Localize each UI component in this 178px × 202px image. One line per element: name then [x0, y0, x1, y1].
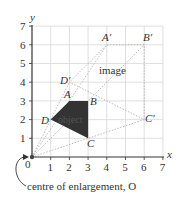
vertex-label-D-prime: D′ — [59, 74, 71, 86]
y-tick-1: 1 — [20, 132, 26, 144]
vertex-label-A: A — [63, 88, 71, 100]
y-tick-5: 5 — [20, 57, 26, 69]
y-tick-4: 4 — [20, 76, 26, 88]
x-tick-2: 2 — [66, 161, 72, 173]
x-axis-label: x — [166, 148, 172, 160]
x-tick-6: 6 — [141, 161, 147, 173]
y-tick-3: 3 — [20, 95, 26, 107]
y-tick-6: 6 — [20, 39, 26, 51]
x-tick-1: 1 — [48, 161, 54, 173]
centre-caption: centre of enlargement, O — [27, 180, 136, 192]
vertex-label-B-prime: B′ — [143, 31, 153, 43]
vertex-label-D: D — [40, 114, 49, 126]
x-tick-4: 4 — [104, 161, 110, 173]
x-tick-7: 7 — [160, 161, 166, 173]
object-label: object — [58, 114, 83, 125]
origin-label: 0 — [25, 158, 31, 170]
y-axis-label: y — [29, 11, 35, 23]
x-tick-3: 3 — [85, 161, 91, 173]
vertex-label-C: C — [87, 137, 95, 149]
x-tick-5: 5 — [122, 161, 128, 173]
vertex-label-C-prime: C′ — [145, 112, 155, 124]
image-label: image — [99, 64, 126, 76]
vertex-label-B: B — [90, 95, 97, 107]
vertex-label-A-prime: A′ — [101, 31, 112, 43]
y-tick-7: 7 — [20, 20, 26, 32]
enlargement-diagram: 1 2 3 4 5 6 7 0 1 2 3 4 5 6 7 x y A B C … — [0, 0, 178, 202]
y-tick-2: 2 — [20, 113, 26, 125]
